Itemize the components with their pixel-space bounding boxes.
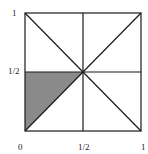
unit-square-diagram	[0, 0, 148, 154]
y-label-mid: 1/2	[8, 67, 20, 76]
x-label-origin: 0	[18, 143, 23, 152]
y-label-top: 1	[12, 9, 17, 18]
x-label-mid: 1/2	[78, 143, 90, 152]
x-label-right: 1	[141, 143, 146, 152]
